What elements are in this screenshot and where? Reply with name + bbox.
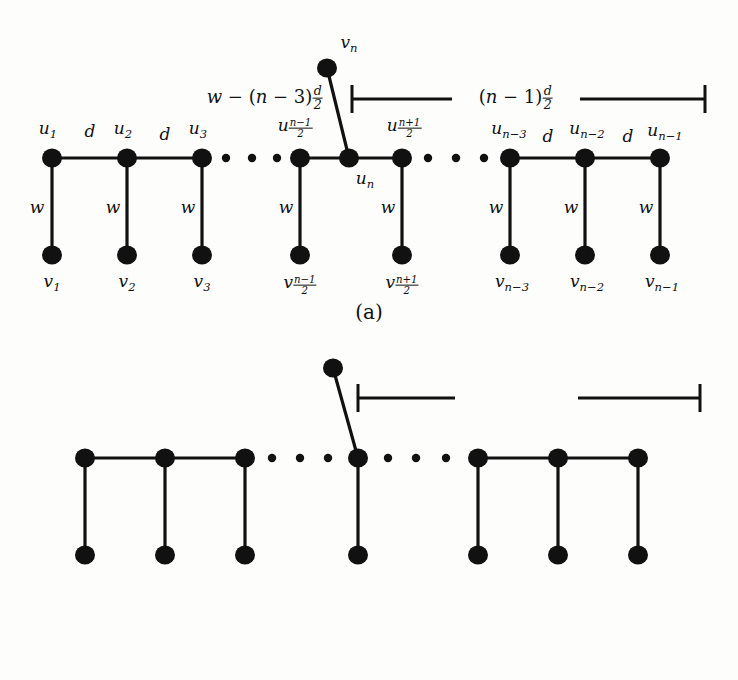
edge-label-w: w <box>639 199 654 216</box>
node-un-1 <box>650 149 670 168</box>
panel-a-ellipsis-left <box>222 154 281 162</box>
node-vn-2 <box>575 246 595 265</box>
panel-b-graphics <box>0 340 738 680</box>
node-label-v1: v1 <box>44 273 61 293</box>
node-label-u-np1-2: un+12 <box>387 117 422 140</box>
edge-label-w: w <box>279 199 294 216</box>
node-u3 <box>235 449 255 468</box>
edge-label-d: d <box>543 128 554 145</box>
node-u-np1-2 <box>392 149 412 168</box>
node-un-2 <box>548 449 568 468</box>
figure-panel-b: vn w − (n − 3)d2 (n − 1)d2 u1 u2 u3 un u… <box>0 340 738 680</box>
ellipsis-dot <box>324 454 332 462</box>
node-v-np1-2 <box>392 246 412 265</box>
edge-label-w: w <box>564 199 579 216</box>
ellipsis-dot <box>412 454 420 462</box>
node-label-un-2: un−2 <box>569 120 604 140</box>
node-u1 <box>75 449 95 468</box>
node-u2 <box>117 149 137 168</box>
node-label-vn-1: vn−1 <box>645 273 679 293</box>
ellipsis-dot <box>384 454 392 462</box>
panel-a-caption: (a) <box>0 300 738 324</box>
node-un-3 <box>500 149 520 168</box>
node-label-u-nm1-2: un−12 <box>278 117 313 140</box>
node-vn-2 <box>548 546 568 565</box>
node-vn-1 <box>650 246 670 265</box>
node-u-nm1-2 <box>290 149 310 168</box>
panel-b-bracket <box>358 384 700 412</box>
node-v1 <box>42 246 62 265</box>
node-vn <box>317 59 337 78</box>
edge-label-w: w <box>181 199 196 216</box>
node-un-1 <box>628 449 648 468</box>
panel-b-nodes <box>75 359 648 565</box>
node-label-un-1: un−1 <box>647 122 682 142</box>
bracket-right-label: (n − 1)d2 <box>479 85 554 112</box>
node-vn-1 <box>628 546 648 565</box>
node-un <box>348 449 368 468</box>
node-u2 <box>155 449 175 468</box>
node-vn-3 <box>500 246 520 265</box>
ellipsis-dot <box>424 154 432 162</box>
figure-panel-a: vn w − (n − 3)d2 (n − 1)d2 u1 u2 u3 un−1… <box>0 0 738 340</box>
ellipsis-dot <box>452 154 460 162</box>
node-label-v3: v3 <box>194 273 211 293</box>
edge-vn-un <box>333 368 358 458</box>
node-v2 <box>117 246 137 265</box>
node-label-v-np1-2: vn+12 <box>385 274 418 297</box>
ellipsis-dot <box>273 154 281 162</box>
edge-label-d: d <box>85 123 96 140</box>
edge-label-w: w <box>30 199 45 216</box>
panel-a-nodes <box>42 59 670 265</box>
node-label-vn: vn <box>340 34 357 54</box>
edge-label-w: w <box>106 199 121 216</box>
node-label-un: un <box>356 170 374 190</box>
bracket-left-label: w − (n − 3)d2 <box>207 85 324 112</box>
node-un <box>339 149 359 168</box>
panel-b-ellipsis-left <box>268 454 332 462</box>
panel-a-ellipsis-right <box>424 154 488 162</box>
edge-label-w: w <box>381 199 396 216</box>
node-label-vn-3: vn−3 <box>495 273 529 293</box>
node-label-v-nm1-2: vn−12 <box>283 274 316 297</box>
edge-label-d: d <box>623 128 634 145</box>
node-label-vn-2: vn−2 <box>570 273 604 293</box>
node-label-u2: u2 <box>114 120 132 140</box>
node-v2 <box>155 546 175 565</box>
node-label-u3: u3 <box>189 120 207 140</box>
node-label-u1: u1 <box>39 120 57 140</box>
ellipsis-dot <box>268 454 276 462</box>
node-label-v2: v2 <box>119 273 136 293</box>
ellipsis-dot <box>248 154 256 162</box>
node-v3 <box>192 246 212 265</box>
edge-label-w: w <box>489 199 504 216</box>
ellipsis-dot <box>480 154 488 162</box>
node-vn <box>323 359 343 378</box>
node-u3 <box>192 149 212 168</box>
edge-vn-un <box>327 68 349 158</box>
panel-b-ellipsis-right <box>384 454 450 462</box>
node-vn-3 <box>468 546 488 565</box>
node-v-n-2 <box>348 546 368 565</box>
ellipsis-dot <box>222 154 230 162</box>
node-un-3 <box>468 449 488 468</box>
node-un-2 <box>575 149 595 168</box>
node-v-nm1-2 <box>290 246 310 265</box>
node-label-un-3: un−3 <box>491 120 526 140</box>
ellipsis-dot <box>442 454 450 462</box>
node-v1 <box>75 546 95 565</box>
edge-label-d: d <box>160 126 171 143</box>
node-u1 <box>42 149 62 168</box>
ellipsis-dot <box>296 454 304 462</box>
node-v3 <box>235 546 255 565</box>
